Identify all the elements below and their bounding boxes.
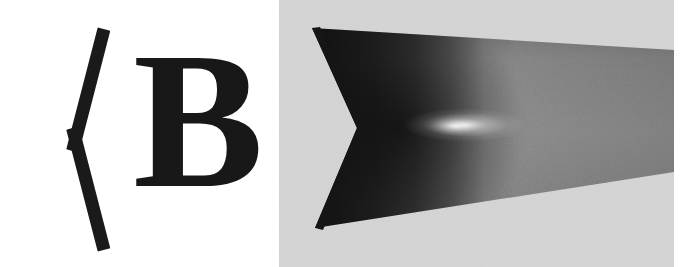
- left-angle-bracket-icon: [44, 28, 114, 252]
- bracket-lower-stroke: [66, 126, 110, 251]
- bra-letter-b: B: [133, 30, 278, 210]
- photo-panel: [279, 0, 674, 267]
- notation-panel: B: [0, 0, 279, 267]
- right-white-margin: [674, 0, 692, 267]
- chevron-wedge-band-image: [279, 0, 674, 267]
- figure-plate: B: [0, 0, 692, 267]
- film-grain-overlay: [279, 0, 674, 267]
